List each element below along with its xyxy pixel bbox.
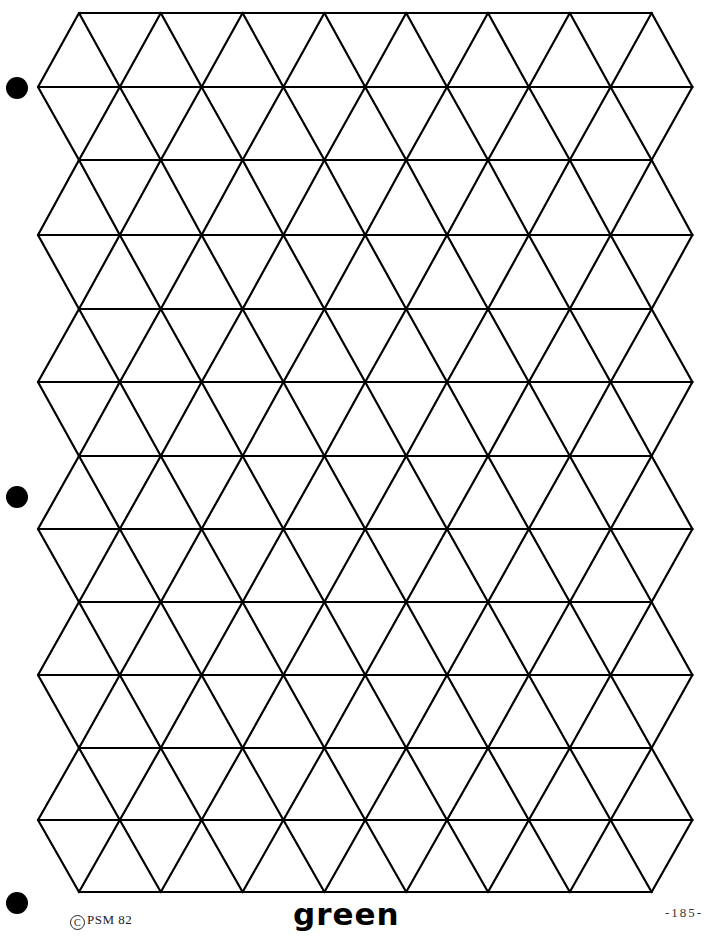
hole-punch-icon [6,892,28,914]
copyright-text: PSM 82 [87,912,132,927]
hole-punch-icon [6,486,28,508]
hole-punch-icon [6,77,28,99]
triangle-grid [0,0,709,939]
page-title: green [293,896,400,932]
page-number: -185- [665,905,703,921]
copyright-notice: CPSM 82 [70,912,132,930]
copyright-icon: C [70,915,85,930]
